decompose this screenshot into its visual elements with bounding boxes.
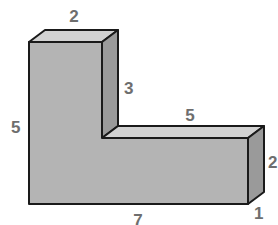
label-right-height: 2 (268, 153, 277, 172)
low-side-face (248, 126, 264, 204)
label-inner-vertical: 3 (124, 79, 133, 98)
label-top-width: 2 (69, 7, 78, 26)
label-bottom-length: 7 (133, 211, 142, 225)
front-face (29, 42, 248, 204)
label-left-height: 5 (11, 118, 20, 137)
label-inner-horizontal: 5 (185, 106, 194, 125)
low-top-face (102, 126, 264, 138)
tall-side-face (102, 30, 118, 138)
l-prism-diagram: 2 3 5 5 2 1 7 (0, 0, 278, 225)
label-depth: 1 (254, 204, 263, 223)
